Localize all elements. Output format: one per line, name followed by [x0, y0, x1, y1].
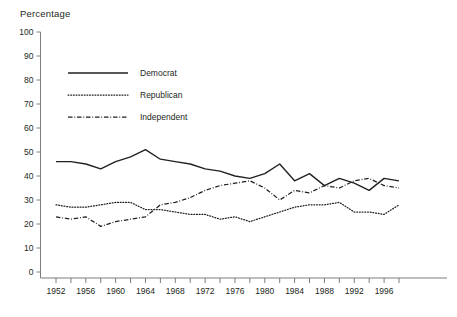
series-lines	[56, 150, 399, 227]
x-tick-label: 1964	[136, 286, 155, 296]
y-tick-label: 90	[24, 51, 34, 61]
party-identification-line-chart: Percentage 0102030405060708090100 195219…	[0, 0, 457, 317]
y-tick-label: 10	[24, 243, 34, 253]
x-axis: 1952195619601964196819721976198019841988…	[41, 278, 448, 296]
x-tick-label: 1952	[47, 286, 66, 296]
y-tick-label: 0	[29, 267, 34, 277]
x-tick-label: 1992	[345, 286, 364, 296]
x-tick-label: 1968	[166, 286, 185, 296]
y-tick-label: 40	[24, 171, 34, 181]
chart-plot-area: 0102030405060708090100 19521956196019641…	[0, 0, 457, 317]
x-tick-label: 1956	[76, 286, 95, 296]
y-tick-label: 50	[24, 147, 34, 157]
x-tick-label: 1984	[285, 286, 304, 296]
y-tick-label: 30	[24, 195, 34, 205]
x-tick-label: 1996	[375, 286, 394, 296]
chart-legend: DemocratRepublicanIndependent	[68, 68, 188, 122]
series-line-independent	[56, 178, 399, 226]
legend-label-republican: Republican	[140, 90, 183, 100]
series-line-republican	[56, 202, 399, 221]
x-tick-label: 1976	[225, 286, 244, 296]
y-tick-label: 100	[19, 27, 33, 37]
x-tick-label: 1960	[106, 286, 125, 296]
legend-label-independent: Independent	[140, 112, 188, 122]
x-tick-label: 1980	[255, 286, 274, 296]
y-tick-label: 80	[24, 75, 34, 85]
legend-label-democrat: Democrat	[140, 68, 177, 78]
x-tick-label: 1988	[315, 286, 334, 296]
x-tick-label: 1972	[196, 286, 215, 296]
y-tick-label: 70	[24, 99, 34, 109]
y-axis: 0102030405060708090100	[19, 27, 40, 278]
y-tick-label: 60	[24, 123, 34, 133]
y-tick-label: 20	[24, 219, 34, 229]
